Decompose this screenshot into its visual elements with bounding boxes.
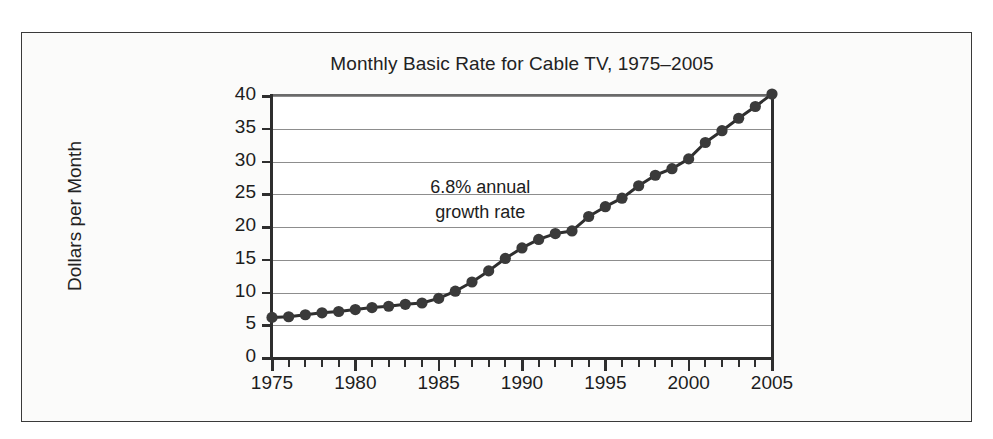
y-tick-30 — [262, 161, 271, 164]
x-tick-1988 — [488, 359, 490, 367]
x-tick-1985 — [438, 359, 441, 371]
y-tick-label-0: 0 — [210, 345, 256, 367]
x-tick-1998 — [654, 359, 656, 367]
y-tick-label-40: 40 — [210, 83, 256, 105]
y-tick-15 — [262, 259, 271, 262]
y-tick-25 — [262, 193, 271, 196]
x-tick-label-2005: 2005 — [732, 372, 812, 394]
axis-right-spine — [771, 94, 774, 360]
y-tick-0 — [262, 357, 271, 360]
y-tick-5 — [262, 324, 271, 327]
x-tick-1987 — [471, 359, 473, 367]
x-tick-1995 — [604, 359, 607, 371]
y-tick-10 — [262, 292, 271, 295]
x-tick-1991 — [538, 359, 540, 367]
annotation-line-2: growth rate — [360, 200, 600, 225]
x-tick-1979 — [338, 359, 340, 367]
x-tick-1981 — [371, 359, 373, 367]
axis-top-spine — [270, 94, 774, 96]
x-tick-label-1985: 1985 — [399, 372, 479, 394]
y-tick-label-5: 5 — [210, 312, 256, 334]
y-tick-35 — [262, 128, 271, 131]
x-tick-1999 — [671, 359, 673, 367]
plot-area — [272, 96, 772, 358]
y-tick-label-15: 15 — [210, 247, 256, 269]
x-tick-2002 — [721, 359, 723, 367]
x-tick-2003 — [738, 359, 740, 367]
x-tick-2000 — [688, 359, 691, 371]
x-tick-1977 — [304, 359, 306, 367]
x-tick-label-1975: 1975 — [232, 372, 312, 394]
x-tick-1978 — [321, 359, 323, 367]
chart-title: Monthly Basic Rate for Cable TV, 1975–20… — [272, 53, 772, 75]
x-tick-2005 — [771, 359, 774, 371]
x-tick-2004 — [754, 359, 756, 367]
x-tick-1990 — [521, 359, 524, 371]
gridline-y-40 — [272, 96, 772, 97]
x-tick-label-1980: 1980 — [315, 372, 395, 394]
gridline-y-35 — [272, 129, 772, 130]
x-tick-1992 — [554, 359, 556, 367]
x-tick-1989 — [504, 359, 506, 367]
x-tick-label-2000: 2000 — [649, 372, 729, 394]
x-tick-1997 — [638, 359, 640, 367]
y-tick-label-35: 35 — [210, 116, 256, 138]
y-tick-20 — [262, 226, 271, 229]
y-tick-label-20: 20 — [210, 214, 256, 236]
gridline-y-10 — [272, 293, 772, 294]
x-tick-1983 — [404, 359, 406, 367]
x-tick-1982 — [388, 359, 390, 367]
x-tick-1993 — [571, 359, 573, 367]
x-tick-1986 — [454, 359, 456, 367]
gridline-y-20 — [272, 227, 772, 228]
x-tick-2001 — [704, 359, 706, 367]
y-tick-40 — [262, 95, 271, 98]
x-tick-label-1995: 1995 — [565, 372, 645, 394]
x-tick-1984 — [421, 359, 423, 367]
x-tick-1994 — [588, 359, 590, 367]
growth-rate-annotation: 6.8% annual growth rate — [360, 175, 600, 225]
x-tick-1975 — [271, 359, 274, 371]
figure-container: Monthly Basic Rate for Cable TV, 1975–20… — [0, 0, 993, 439]
gridline-y-30 — [272, 162, 772, 163]
x-tick-label-1990: 1990 — [482, 372, 562, 394]
x-tick-1996 — [621, 359, 623, 367]
annotation-line-1: 6.8% annual — [360, 175, 600, 200]
y-tick-label-30: 30 — [210, 149, 256, 171]
y-tick-label-10: 10 — [210, 280, 256, 302]
gridline-y-5 — [272, 325, 772, 326]
x-tick-1980 — [354, 359, 357, 371]
x-tick-1976 — [288, 359, 290, 367]
y-tick-label-25: 25 — [210, 181, 256, 203]
gridline-y-15 — [272, 260, 772, 261]
y-axis-title: Dollars per Month — [64, 86, 86, 346]
